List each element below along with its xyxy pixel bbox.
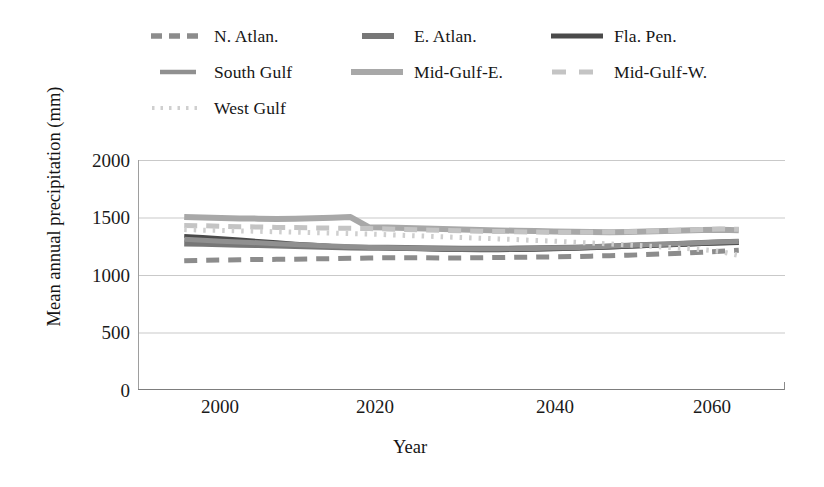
legend-row: South Gulf Mid-Gulf-E. Mid-Gulf-W. bbox=[150, 54, 750, 90]
x-axis-title: Year bbox=[330, 437, 490, 458]
legend-row: N. Atlan. E. Atlan. Fla. Pen. bbox=[150, 18, 750, 54]
legend-label: N. Atlan. bbox=[214, 26, 279, 47]
legend-label: Fla. Pen. bbox=[614, 26, 677, 47]
y-axis-title: Mean annual precipitation (mm) bbox=[44, 57, 65, 357]
y-tick-labels: 2000 1500 1000 500 0 bbox=[58, 0, 130, 487]
legend-entry-west-gulf[interactable]: West Gulf bbox=[150, 98, 350, 119]
chart-legend: N. Atlan. E. Atlan. Fla. Pen. South bbox=[150, 18, 750, 126]
legend-label: West Gulf bbox=[214, 98, 286, 119]
x-tick-label: 2060 bbox=[667, 396, 757, 418]
legend-entry-fla-pen[interactable]: Fla. Pen. bbox=[550, 26, 677, 47]
y-tick-label: 0 bbox=[60, 380, 130, 402]
precipitation-line-chart: N. Atlan. E. Atlan. Fla. Pen. South bbox=[0, 0, 824, 487]
legend-label: Mid-Gulf-E. bbox=[414, 62, 503, 83]
legend-line-marker bbox=[550, 30, 604, 42]
legend-dash-marker bbox=[150, 30, 204, 42]
legend-label: E. Atlan. bbox=[414, 26, 477, 47]
legend-entry-south-gulf[interactable]: South Gulf bbox=[150, 62, 350, 83]
data-series-layer bbox=[184, 217, 739, 261]
plot-area bbox=[138, 160, 785, 390]
legend-label: South Gulf bbox=[214, 62, 292, 83]
legend-entry-e-atlan[interactable]: E. Atlan. bbox=[350, 26, 550, 47]
y-tick-label: 1000 bbox=[60, 265, 130, 287]
legend-entry-n-atlan[interactable]: N. Atlan. bbox=[150, 26, 350, 47]
y-tick-label: 1500 bbox=[60, 207, 130, 229]
legend-row: West Gulf bbox=[150, 90, 750, 126]
legend-dash-marker bbox=[550, 66, 604, 78]
legend-entry-mid-gulf-w[interactable]: Mid-Gulf-W. bbox=[550, 62, 707, 83]
y-tick-label: 500 bbox=[60, 322, 130, 344]
x-tick-label: 2040 bbox=[510, 396, 600, 418]
legend-dot-marker bbox=[150, 102, 204, 114]
legend-entry-mid-gulf-e[interactable]: Mid-Gulf-E. bbox=[350, 62, 550, 83]
plot-canvas bbox=[138, 160, 785, 390]
legend-line-marker bbox=[150, 66, 204, 78]
x-tick-label: 2000 bbox=[175, 396, 265, 418]
legend-line-marker bbox=[350, 66, 404, 78]
x-tick-label: 2020 bbox=[330, 396, 420, 418]
legend-label: Mid-Gulf-W. bbox=[614, 62, 707, 83]
y-tick-label: 2000 bbox=[60, 150, 130, 172]
legend-line-marker bbox=[350, 30, 404, 42]
